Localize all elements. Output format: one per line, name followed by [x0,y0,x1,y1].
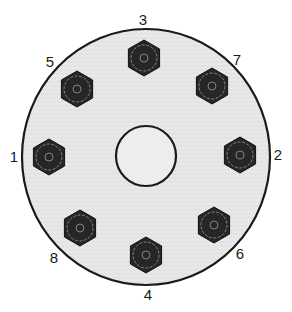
sequence-label-1: 1 [10,148,18,165]
bolt-sequence-diagram: 12345678 [0,0,292,312]
sequence-label-4: 4 [144,286,152,303]
sequence-label-2: 2 [274,146,282,163]
sequence-label-6: 6 [236,245,244,262]
sequence-label-5: 5 [46,53,54,70]
center-hole [116,126,176,186]
sequence-label-7: 7 [233,51,241,68]
sequence-label-8: 8 [50,249,58,266]
sequence-label-3: 3 [139,11,147,28]
